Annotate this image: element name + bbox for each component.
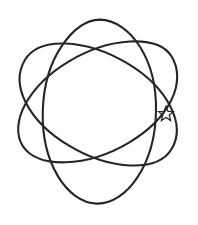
figure-background [0,0,198,225]
atom-figure-canvas: Atom symbol Line drawing of an atom: thr… [0,0,198,225]
atom-diagram: Atom symbol Line drawing of an atom: thr… [0,0,198,225]
